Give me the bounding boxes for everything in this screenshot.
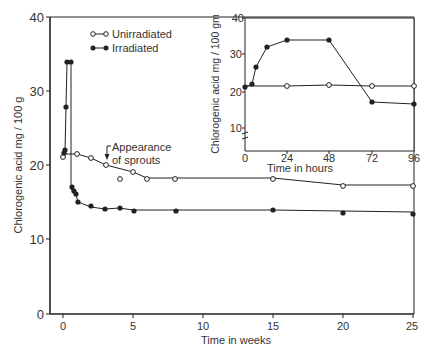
inset-x-tick-96: 96 — [408, 152, 420, 164]
inset-x-axis-label: Time in hours — [267, 162, 334, 174]
annotation-line2: of sprouts — [112, 154, 161, 166]
chart-canvas: 40 30 20 10 0 0 5 10 15 20 25 Time in we… — [0, 0, 429, 350]
open-circle-marker-icon — [91, 32, 96, 37]
annotation-line1: Appearance — [112, 141, 171, 153]
y-tick-30: 30 — [30, 84, 44, 99]
inset-y-axis-label: Chlorogenic acid mg / 100 gm — [209, 14, 221, 154]
inset-x-tick-72: 72 — [366, 152, 378, 164]
y-tick-10: 10 — [30, 232, 44, 247]
main-x-tick-labels: 0 5 10 15 20 25 — [60, 320, 418, 332]
y-tick-40: 40 — [30, 10, 44, 25]
y-tick-20: 20 — [30, 158, 44, 173]
inset-chart: 40 30 20 10 0 24 48 72 96 Time in hours … — [209, 12, 420, 174]
sprouts-annotation: Appearance of sprouts — [105, 141, 172, 166]
x-tick-5: 5 — [130, 320, 136, 332]
inset-x-tick-0: 0 — [242, 152, 248, 164]
inset-y-tick-20: 20 — [230, 86, 242, 98]
legend-irradiated: Irradiated — [112, 42, 158, 54]
x-tick-15: 15 — [267, 320, 279, 332]
x-tick-25: 25 — [406, 320, 418, 332]
main-y-axis-label: Chlorogenic acid mg / 100 g — [12, 97, 24, 234]
x-tick-20: 20 — [337, 320, 349, 332]
x-tick-0: 0 — [60, 320, 66, 332]
inset-y-tick-40: 40 — [232, 12, 244, 24]
main-y-tick-labels: 40 30 20 10 0 — [30, 10, 44, 322]
inset-y-tick-10: 10 — [230, 122, 242, 134]
legend-unirradiated: Unirradiated — [112, 28, 172, 40]
arrow-down-icon — [105, 154, 110, 160]
filled-circle-marker-icon — [91, 46, 96, 51]
legend: Unirradiated Irradiated — [91, 28, 172, 54]
inset-y-tick-30: 30 — [230, 48, 242, 60]
main-x-axis-label: Time in weeks — [201, 334, 271, 346]
x-tick-10: 10 — [197, 320, 209, 332]
y-tick-0: 0 — [37, 307, 44, 322]
